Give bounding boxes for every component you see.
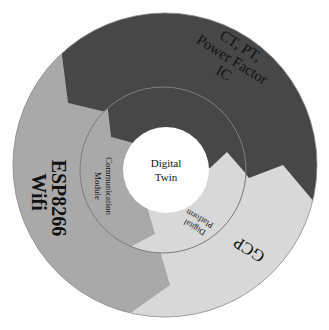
esp-label-line2: Wifi (28, 173, 50, 211)
communication-label-line2: Module (93, 172, 103, 200)
digital-twin-diagram: Digital Twin Sensor Communication Module… (0, 0, 329, 330)
communication-label-line1: Communication (104, 157, 114, 215)
center-label-line1: Digital (151, 157, 182, 169)
center-label-line2: Twin (155, 171, 178, 183)
esp-label-line1: ESP8266 (48, 160, 70, 237)
center-circle (123, 127, 209, 213)
